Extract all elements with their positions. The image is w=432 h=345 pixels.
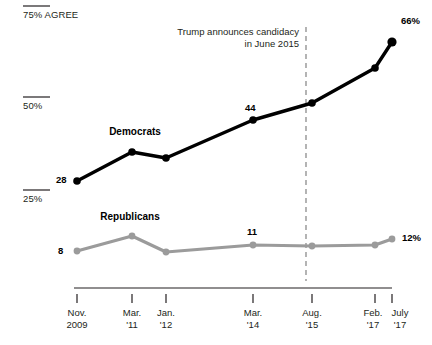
data-point-democrats-6 xyxy=(387,37,396,46)
data-point-republicans-4 xyxy=(309,243,316,250)
data-point-republicans-5 xyxy=(372,242,379,249)
value-label-republicans-mid: 11 xyxy=(247,226,257,237)
chart-plot-area xyxy=(0,0,432,345)
data-point-republicans-1 xyxy=(129,233,136,240)
x-axis-label-5: Feb. '17 xyxy=(363,307,382,330)
annotation-line-1: Trump announces candidacy xyxy=(0,26,299,38)
data-point-republicans-6 xyxy=(389,236,396,243)
data-point-democrats-3 xyxy=(249,116,257,124)
data-point-republicans-2 xyxy=(163,249,170,256)
x-axis-label-6: July '17 xyxy=(392,307,409,330)
data-point-democrats-0 xyxy=(73,177,81,185)
x-axis-label-4: Aug. '15 xyxy=(302,307,322,330)
value-label-republicans-end: 12% xyxy=(402,232,421,243)
x-axis-label-5-line2: '17 xyxy=(363,319,382,331)
x-axis-label-1: Mar. '11 xyxy=(123,307,141,330)
series-line-democrats xyxy=(77,42,392,181)
annotation-trump-announcement: Trump announces candidacy in June 2015 xyxy=(0,26,299,50)
data-point-democrats-5 xyxy=(371,64,379,72)
x-axis-label-0-line2: 2009 xyxy=(66,319,87,331)
x-axis-label-4-line1: Aug. xyxy=(302,307,322,319)
series-republicans xyxy=(74,233,396,256)
value-label-democrats-start: 28 xyxy=(56,174,67,185)
series-line-republicans xyxy=(77,236,392,252)
x-axis-label-2-line2: '12 xyxy=(157,319,175,331)
x-axis-label-1-line1: Mar. xyxy=(123,307,141,319)
x-axis-label-3-line2: '14 xyxy=(244,319,262,331)
value-label-republicans-start: 8 xyxy=(58,245,63,256)
data-point-democrats-2 xyxy=(162,154,170,162)
data-point-republicans-0 xyxy=(74,248,81,255)
annotation-line-2: in June 2015 xyxy=(0,38,299,50)
x-axis-ticks xyxy=(77,294,392,303)
x-axis-label-2-line1: Jan. xyxy=(157,307,175,319)
chart-container: 75% AGREE 50% 25% Nov. 2009 Mar. '11 Jan… xyxy=(0,0,432,345)
x-axis-label-4-line2: '15 xyxy=(302,319,322,331)
x-axis-label-6-line1: July xyxy=(392,307,409,319)
x-axis-label-5-line1: Feb. xyxy=(363,307,382,319)
series-democrats xyxy=(73,37,396,184)
x-axis-label-2: Jan. '12 xyxy=(157,307,175,330)
y-axis-label-50: 50% xyxy=(23,100,42,111)
series-label-democrats: Democrats xyxy=(109,126,161,137)
x-axis-label-0-line1: Nov. xyxy=(66,307,87,319)
series-label-republicans: Republicans xyxy=(100,211,159,222)
value-label-democrats-end: 66% xyxy=(401,15,420,26)
y-axis-label-25: 25% xyxy=(23,193,42,204)
x-axis-label-3: Mar. '14 xyxy=(244,307,262,330)
x-axis-label-0: Nov. 2009 xyxy=(66,307,87,330)
data-point-democrats-1 xyxy=(128,148,136,156)
data-point-democrats-4 xyxy=(308,99,316,107)
value-label-democrats-mid: 44 xyxy=(245,102,256,113)
x-axis-label-3-line1: Mar. xyxy=(244,307,262,319)
y-axis-label-75: 75% AGREE xyxy=(23,9,78,20)
data-point-republicans-3 xyxy=(250,242,257,249)
x-axis-label-6-line2: '17 xyxy=(392,319,409,331)
x-axis-label-1-line2: '11 xyxy=(123,319,141,331)
